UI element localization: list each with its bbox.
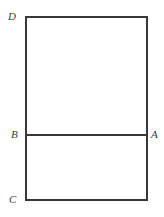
vertex-label-d: D (8, 11, 16, 22)
outer-rectangle (26, 17, 147, 200)
vertex-label-b: B (11, 129, 18, 140)
geometry-figure-canvas: D B A C (0, 0, 164, 217)
vertex-label-a: A (151, 129, 158, 140)
vertex-label-c: C (9, 194, 16, 205)
geometry-figure-svg (0, 0, 164, 217)
